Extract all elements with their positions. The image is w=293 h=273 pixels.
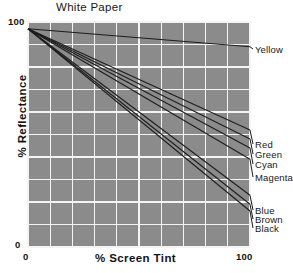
series-label-black: Black — [255, 224, 279, 234]
y-axis-tick-max: 100 — [8, 16, 24, 27]
y-axis-title: % Reflectance — [16, 46, 28, 186]
series-label-cyan: Cyan — [255, 160, 278, 170]
chart-container: White Paper 100 0 0 100 % Screen Tint % … — [0, 0, 293, 273]
x-axis-tick-max: 100 — [236, 251, 252, 262]
plot-area — [0, 0, 293, 273]
x-axis-tick-min: 0 — [23, 251, 28, 262]
y-axis-tick-min: 0 — [15, 239, 20, 250]
series-label-yellow: Yellow — [255, 45, 283, 55]
x-axis-title: % Screen Tint — [95, 252, 176, 264]
series-label-magenta: Magenta — [255, 173, 293, 183]
